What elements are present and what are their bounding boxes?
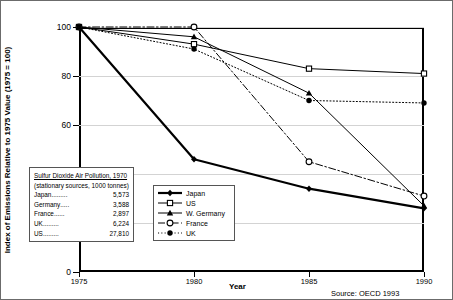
info-box-row: France......2,897 — [34, 209, 129, 219]
chart-figure: Index of Emissions Relative to 1975 Valu… — [0, 0, 453, 300]
y-tick-label: 80 — [62, 71, 71, 81]
data-point-marker — [167, 190, 173, 196]
info-box-row: UK.........6,224 — [34, 219, 129, 229]
legend-swatch — [157, 208, 183, 218]
data-point-marker — [306, 186, 312, 192]
info-row-dots: ......... — [43, 229, 110, 239]
source-note: Source: OECD 1993 — [331, 289, 399, 298]
data-point-marker — [191, 42, 196, 47]
data-point-marker — [421, 193, 427, 199]
info-row-dots: ......... — [51, 190, 113, 200]
data-point-marker — [306, 98, 311, 103]
y-tick-label: 100 — [57, 22, 71, 32]
info-row-value: 3,588 — [113, 200, 129, 210]
info-box-row: Germany.....3,588 — [34, 200, 129, 210]
info-box-rows: Japan.........5,573Germany.....3,588Fran… — [34, 190, 129, 238]
data-point-marker — [421, 100, 426, 105]
data-point-marker — [306, 66, 311, 71]
legend-label: UK — [186, 230, 196, 237]
info-box: Sulfur Dioxide Air Pollution, 1970 (stat… — [29, 167, 134, 242]
info-row-label: Germany — [34, 200, 60, 210]
legend-swatch — [157, 228, 183, 238]
data-point-marker — [76, 24, 81, 29]
legend-item-w-germany[interactable]: W. Germany — [157, 208, 231, 218]
legend-item-japan[interactable]: Japan — [157, 188, 231, 198]
legend-item-france[interactable]: France — [157, 218, 231, 228]
info-row-value: 2,897 — [113, 209, 129, 219]
x-tick-label: 1975 — [71, 277, 88, 286]
info-row-dots: ......... — [43, 219, 113, 229]
data-point-marker — [191, 24, 197, 30]
series-us — [76, 24, 426, 76]
info-row-value: 6,224 — [113, 219, 129, 229]
data-point-marker — [306, 90, 312, 96]
info-row-value: 27,810 — [109, 229, 129, 239]
info-row-label: UK — [34, 219, 43, 229]
legend-swatch — [157, 188, 183, 198]
info-row-value: 5,573 — [113, 190, 129, 200]
legend-item-uk[interactable]: UK — [157, 228, 231, 238]
legend-swatch — [157, 218, 183, 228]
legend-item-us[interactable]: US — [157, 198, 231, 208]
series-line — [79, 27, 424, 74]
info-row-dots: ...... — [54, 209, 113, 219]
info-row-label: France — [34, 209, 54, 219]
legend-label: Japan — [186, 190, 205, 197]
data-point-marker — [421, 71, 426, 76]
info-row-dots: ..... — [60, 200, 113, 210]
data-point-marker — [306, 159, 312, 165]
legend-label: W. Germany — [186, 210, 225, 217]
x-tick-label: 1980 — [186, 277, 203, 286]
data-point-marker — [167, 230, 172, 235]
data-point-marker — [167, 220, 173, 226]
y-axis-title: Index of Emissions Relative to 1975 Valu… — [3, 25, 12, 275]
info-row-label: US — [34, 229, 43, 239]
x-axis-title: Year — [229, 282, 246, 291]
legend-label: France — [186, 220, 208, 227]
info-box-subtitle: (stationary sources, 1000 tonnes) — [34, 181, 129, 191]
chart-legend: JapanUSW. GermanyFranceUK — [153, 185, 235, 241]
legend-swatch — [157, 198, 183, 208]
info-row-label: Japan — [34, 190, 51, 200]
info-box-row: Japan.........5,573 — [34, 190, 129, 200]
y-tick-label: 60 — [62, 120, 71, 130]
data-point-marker — [191, 46, 196, 51]
info-box-row: US.........27,810 — [34, 229, 129, 239]
y-tick-label: 0 — [66, 267, 71, 277]
x-tick-label: 1990 — [416, 277, 433, 286]
x-tick-label: 1985 — [301, 277, 318, 286]
data-point-marker — [167, 200, 172, 205]
info-box-title: Sulfur Dioxide Air Pollution, 1970 — [34, 171, 129, 181]
legend-label: US — [186, 200, 196, 207]
